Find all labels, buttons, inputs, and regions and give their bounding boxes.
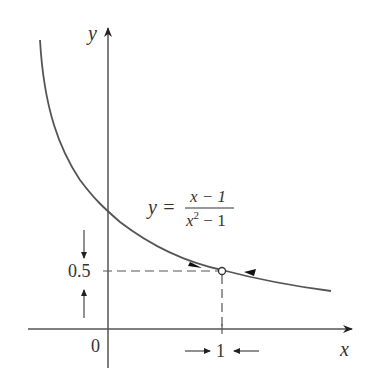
y-axis-label: y [86, 22, 97, 45]
svg-text:x − 1: x − 1 [189, 187, 226, 206]
svg-text:x2 − 1: x2 − 1 [185, 209, 226, 230]
x-axis-label: x [339, 338, 349, 360]
x-tick-label: 1 [216, 341, 225, 361]
hole-marker [219, 268, 226, 275]
limit-graph: y x 0 0.5 1 y = x − 1 x2 − 1 [0, 0, 377, 386]
function-label: y = x − 1 x2 − 1 [146, 187, 234, 230]
origin-label: 0 [91, 336, 100, 356]
svg-text:y =: y = [146, 196, 175, 219]
y-tick-label: 0.5 [68, 261, 91, 281]
